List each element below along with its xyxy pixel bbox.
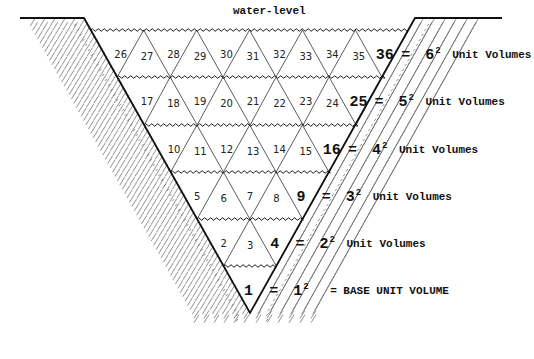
cell-number: 15 <box>299 146 312 157</box>
row-total: 25 <box>350 94 368 111</box>
cell-number: 26 <box>114 49 127 60</box>
row-total: 36 <box>376 47 394 64</box>
water-level-label: water-level <box>233 5 306 17</box>
row-label: Unit Volumes <box>346 238 425 250</box>
cell-number: 33 <box>300 51 313 62</box>
cell-number: 22 <box>273 98 286 109</box>
square-base: 1 <box>293 283 302 300</box>
square-exponent: 2 <box>382 141 387 151</box>
diagram-canvas: water-level 2627282930313233343536=62Uni… <box>0 0 534 359</box>
square-exponent: 2 <box>435 46 440 56</box>
row-label: = BASE UNIT VOLUME <box>330 285 449 297</box>
row-total: 4 <box>270 236 279 253</box>
cell-number: 24 <box>326 98 339 109</box>
square-base: 4 <box>372 142 381 159</box>
row-total: 9 <box>296 189 305 206</box>
cell-number: 32 <box>273 49 286 60</box>
cell-number: 11 <box>194 146 207 157</box>
square-exponent: 2 <box>303 282 308 292</box>
cell-number: 29 <box>194 51 207 62</box>
row-label: Unit Volumes <box>373 191 452 203</box>
cell-number: 20 <box>220 98 233 109</box>
cell-number: 10 <box>168 144 181 155</box>
equals-sign: = <box>295 236 304 253</box>
cell-number: 13 <box>247 146 260 157</box>
row-total: 1 <box>244 283 253 300</box>
square-base: 6 <box>425 47 434 64</box>
cell-number: 5 <box>194 191 200 202</box>
square-exponent: 2 <box>409 93 414 103</box>
labels: water-level 2627282930313233343536=62Uni… <box>114 5 531 300</box>
cell-number: 18 <box>167 98 180 109</box>
cell-number: 35 <box>352 51 365 62</box>
cell-number: 31 <box>247 51 260 62</box>
funnel-diagram: water-level 2627282930313233343536=62Uni… <box>0 0 534 359</box>
square-base: 5 <box>399 94 408 111</box>
square-exponent: 2 <box>356 188 361 198</box>
ground-hatching <box>30 18 479 323</box>
cell-number: 30 <box>220 49 233 60</box>
cell-number: 21 <box>247 96 260 107</box>
row-label: Unit Volumes <box>399 144 478 156</box>
cell-number: 19 <box>194 96 207 107</box>
cell-number: 7 <box>247 191 253 202</box>
equals-sign: = <box>269 283 278 300</box>
cell-number: 17 <box>141 96 154 107</box>
row-label: Unit Volumes <box>452 49 531 61</box>
square-exponent: 2 <box>329 235 334 245</box>
cell-number: 8 <box>273 193 279 204</box>
cell-number: 2 <box>221 238 227 249</box>
cell-number: 12 <box>220 144 233 155</box>
cell-number: 34 <box>326 49 339 60</box>
cell-number: 23 <box>300 96 313 107</box>
cell-number: 28 <box>167 49 180 60</box>
equals-sign: = <box>322 189 331 206</box>
cell-number: 27 <box>141 51 154 62</box>
row-label: Unit Volumes <box>426 96 505 108</box>
square-base: 3 <box>346 189 355 206</box>
square-base: 2 <box>319 236 328 253</box>
equals-sign: = <box>375 94 384 111</box>
cell-number: 6 <box>220 193 226 204</box>
equals-sign: = <box>401 47 410 64</box>
cell-number: 3 <box>247 240 253 251</box>
cell-number: 14 <box>273 144 286 155</box>
row-total: 16 <box>323 142 341 159</box>
equals-sign: = <box>348 142 357 159</box>
